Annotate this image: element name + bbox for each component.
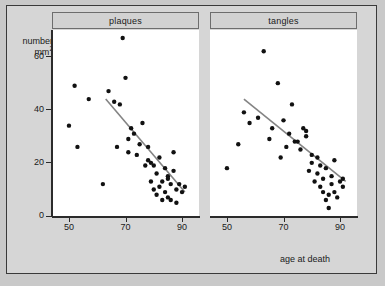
plot-area-plaques	[52, 30, 199, 216]
data-point	[332, 158, 336, 162]
y-axis-tick-label: 40	[34, 105, 44, 114]
data-point	[287, 131, 291, 135]
data-point	[281, 118, 285, 122]
y-axis-tick-mark	[46, 162, 51, 163]
y-axis-tick-mark	[46, 109, 51, 110]
data-point	[304, 129, 308, 133]
data-point	[329, 174, 333, 178]
data-point	[140, 121, 144, 125]
data-point	[183, 185, 187, 189]
data-point	[341, 185, 345, 189]
data-point	[310, 161, 314, 165]
panel-title-tangles: tangles	[268, 16, 298, 26]
data-point	[126, 137, 130, 141]
data-point	[171, 169, 175, 173]
data-point	[163, 166, 167, 170]
data-point	[262, 49, 266, 53]
panel-strip-plaques: plaques	[52, 12, 199, 29]
data-point	[324, 166, 328, 170]
y-axis-tick-label: 0	[39, 211, 44, 220]
data-point	[174, 187, 178, 191]
data-point	[267, 137, 271, 141]
data-point	[149, 179, 153, 183]
data-point	[157, 155, 161, 159]
data-point	[247, 121, 251, 125]
data-point	[157, 185, 161, 189]
data-point	[329, 182, 333, 186]
data-point	[132, 131, 136, 135]
data-point	[123, 76, 127, 80]
x-axis-tick-label-tangles: 90	[328, 223, 352, 232]
plot-area-tangles	[210, 30, 357, 216]
data-point	[146, 145, 150, 149]
data-point	[318, 163, 322, 167]
data-point	[327, 206, 331, 210]
data-point	[307, 169, 311, 173]
data-point	[152, 187, 156, 191]
data-point	[154, 193, 158, 197]
data-point	[72, 84, 76, 88]
data-point	[106, 89, 110, 93]
data-point	[335, 195, 339, 199]
x-axis-label: age at death	[257, 254, 353, 264]
panel-strip-tangles: tangles	[210, 12, 357, 29]
data-point	[112, 100, 116, 104]
data-point	[152, 163, 156, 167]
y-axis-tick-mark	[46, 56, 51, 57]
data-point	[242, 110, 246, 114]
data-point	[154, 171, 158, 175]
data-point	[256, 115, 260, 119]
data-point	[75, 145, 79, 149]
x-axis-tick-label-plaques: 90	[170, 223, 194, 232]
data-point	[137, 142, 141, 146]
data-point	[169, 182, 173, 186]
data-point	[101, 182, 105, 186]
data-point	[225, 166, 229, 170]
data-point	[278, 155, 282, 159]
x-axis-tick-label-tangles: 70	[272, 223, 296, 232]
data-point	[312, 179, 316, 183]
data-point	[174, 201, 178, 205]
data-point	[327, 193, 331, 197]
data-point	[324, 198, 328, 202]
data-point	[318, 185, 322, 189]
data-point	[284, 145, 288, 149]
data-point	[295, 139, 299, 143]
data-point	[177, 182, 181, 186]
y-axis-tick-mark	[46, 216, 51, 217]
data-point	[126, 150, 130, 154]
data-point	[310, 153, 314, 157]
data-point	[129, 126, 133, 130]
data-point	[332, 190, 336, 194]
x-axis-tick-label-plaques: 50	[57, 223, 81, 232]
panel-title-plaques: plaques	[109, 16, 142, 26]
data-point	[321, 190, 325, 194]
data-point	[276, 81, 280, 85]
y-axis-line	[51, 30, 53, 217]
data-point	[143, 163, 147, 167]
data-point	[290, 102, 294, 106]
plot-panel-plaques	[52, 30, 199, 216]
data-point	[315, 155, 319, 159]
data-point	[315, 171, 319, 175]
data-point	[115, 145, 119, 149]
data-point	[120, 36, 124, 40]
x-axis-tick-label-tangles: 50	[215, 223, 239, 232]
data-point	[171, 150, 175, 154]
data-point	[304, 134, 308, 138]
data-point	[321, 177, 325, 181]
y-axis-tick-label: 20	[34, 158, 44, 167]
data-point	[67, 123, 71, 127]
data-point	[118, 102, 122, 106]
x-axis-tick-label-plaques: 70	[114, 223, 138, 232]
data-point	[298, 147, 302, 151]
plot-panel-tangles	[210, 30, 357, 216]
data-point	[135, 153, 139, 157]
data-point	[160, 198, 164, 202]
data-point	[236, 142, 240, 146]
y-axis-tick-label: 60	[34, 52, 44, 61]
data-point	[163, 190, 167, 194]
data-point	[270, 126, 274, 130]
data-point	[341, 177, 345, 181]
data-point	[166, 177, 170, 181]
